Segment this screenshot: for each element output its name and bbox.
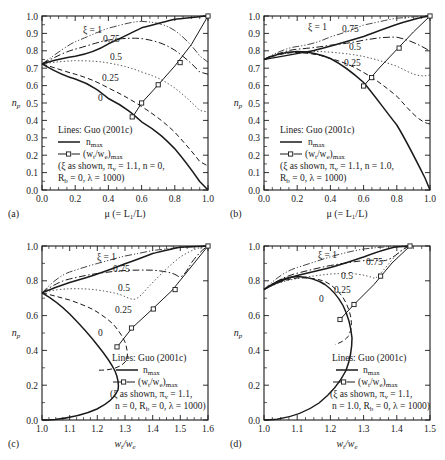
xtick-label: 1.5 [174,424,186,434]
ytick-label: 1.0 [26,242,38,252]
panel-label-d: (d) [230,438,242,450]
y-axis-title: np [12,97,21,110]
legend-title: Lines: Guo (2001c) [58,125,132,136]
ytick-label: 0.9 [248,29,260,39]
curve-label-xi1: ξ = 1 [308,22,327,33]
xtick-label: 0.6 [136,194,148,204]
marker-square [151,307,155,311]
ytick-label: 0.4 [26,346,38,356]
x-axis-title: wt/we [114,438,135,451]
curve-label-05: 0.5 [341,271,353,281]
panel-a-curve-labels: ξ = 1 0.75 0.5 0.25 0 [83,25,122,103]
marker-square [129,326,133,330]
ytick-label: 1.0 [248,12,260,22]
legend-params-1: (ξ as shown, πv = 1.1, [110,389,192,401]
marker-square [379,274,383,278]
legend-entry-nmax: nmax [363,365,380,377]
x-axis-title: wt/we [336,438,357,451]
ytick-label: 1.0 [26,12,38,22]
ytick-label: 0.6 [248,311,260,321]
marker-square [140,101,144,105]
marker-square [338,317,342,321]
panel-a: ξ = 1 0.75 0.5 0.25 0 Lines: Guo (2001c)… [0,0,222,230]
x-axis-title: μ (= L1/L) [104,208,145,221]
xtick-label: 1.2 [91,424,103,434]
panel-a-legend: Lines: Guo (2001c) nmax (wt/we)max (ξ as… [58,125,165,185]
xtick-label: 1.6 [202,424,214,434]
legend-entry-wtwe: (wt/we)max [138,377,178,389]
curve-label-xi1: ξ = 1 [97,252,116,263]
marker-square [362,84,366,88]
ytick-label: 0.4 [248,346,260,356]
legend-line-wtwe [333,380,355,384]
ytick-label: 0.9 [26,29,38,39]
xtick-label: 1.0 [36,424,48,434]
ytick-label: 0.5 [26,99,38,109]
curve-label-025: 0.25 [334,285,351,295]
ytick-label: 0.2 [248,151,260,161]
ytick-label: 0.2 [26,151,38,161]
ytick-label: 0.8 [26,46,38,56]
marker-square [370,76,374,80]
legend-params-1: (ξ as shown, πv = 1.1, [330,389,412,401]
legend-line-wtwe [280,152,302,156]
ytick-label: 0.8 [26,276,38,286]
xtick-label: 0.4 [102,194,114,204]
marker-square [428,14,432,18]
ytick-label: 0.5 [248,99,260,109]
legend-params-2: Rb = 0, λ = 1000) [280,173,346,185]
curve-xi-05 [42,61,208,112]
ytick-label: 0.2 [248,381,260,391]
legend-entry-nmax: nmax [143,365,160,377]
legend-entry-wtwe: (wt/we)max [305,149,345,161]
curve-label-xi1: ξ = 1 [318,250,337,261]
xtick-label: 1.5 [424,424,436,434]
xtick-label: 0.4 [324,194,336,204]
xtick-label: 1.4 [391,424,403,434]
panel-c: ξ = 1 0.75 0.5 0.25 0 Lines: Guo (2001c)… [0,230,222,460]
y-axis-title: np [234,327,243,340]
locus-markers [130,14,210,119]
xtick-label: 1.4 [147,424,159,434]
curve-label-0: 0 [98,328,103,338]
ytick-label: 0.4 [248,116,260,126]
panel-label-c: (c) [8,438,19,450]
curve-label-075: 0.75 [342,24,359,34]
curve-label-0: 0 [319,294,324,304]
curve-label-0: 0 [98,93,103,103]
ytick-label: 0.8 [248,276,260,286]
xtick-label: 1.3 [119,424,131,434]
curve-label-075: 0.75 [366,257,383,267]
xtick-label: 0.2 [291,194,303,204]
ytick-label: 0.6 [26,81,38,91]
legend-params-2: n = 0, Rb = 0, λ = 1000) [115,401,206,413]
legend-line-wtwe [58,152,80,156]
panel-d: ξ = 1 0.75 0.5 0.25 0 Lines: Guo (2001c)… [222,230,444,460]
marker-square [397,46,401,50]
legend-marker-square [67,152,71,156]
figure-four-panel: ξ = 1 0.75 0.5 0.25 0 Lines: Guo (2001c)… [0,0,445,460]
xtick-label: 0.8 [391,194,403,204]
xtick-label: 1.1 [64,424,76,434]
legend-marker-square [289,152,293,156]
ytick-label: 0.8 [248,46,260,56]
xtick-label: 1.3 [358,424,370,434]
marker-square [156,83,160,87]
curve-label-075: 0.75 [103,34,120,44]
marker-square [408,244,412,248]
legend-params-1: (ξ as shown, πv = 1.1, n = 1.0, [280,161,394,173]
curve-label-05: 0.5 [349,42,361,52]
xtick-label: 1.1 [291,424,303,434]
marker-square [206,244,210,248]
panel-b-legend: Lines: Guo (2001c) nmax (wt/we)max (ξ as… [280,125,394,185]
ytick-label: 0.1 [248,168,260,178]
curve-label-xi1: ξ = 1 [83,25,102,36]
x-axis-title: μ (= L1/L) [326,208,367,221]
locus-markers [115,244,210,349]
ytick-label: 0.1 [26,168,38,178]
marker-square [206,14,210,18]
panel-c-legend: Lines: Guo (2001c) nmax (wt/we)max (ξ as… [110,353,206,413]
curve-nmax-C-branch [42,293,118,420]
curve-label-05: 0.5 [118,283,130,293]
curve-label-05: 0.5 [110,52,122,62]
